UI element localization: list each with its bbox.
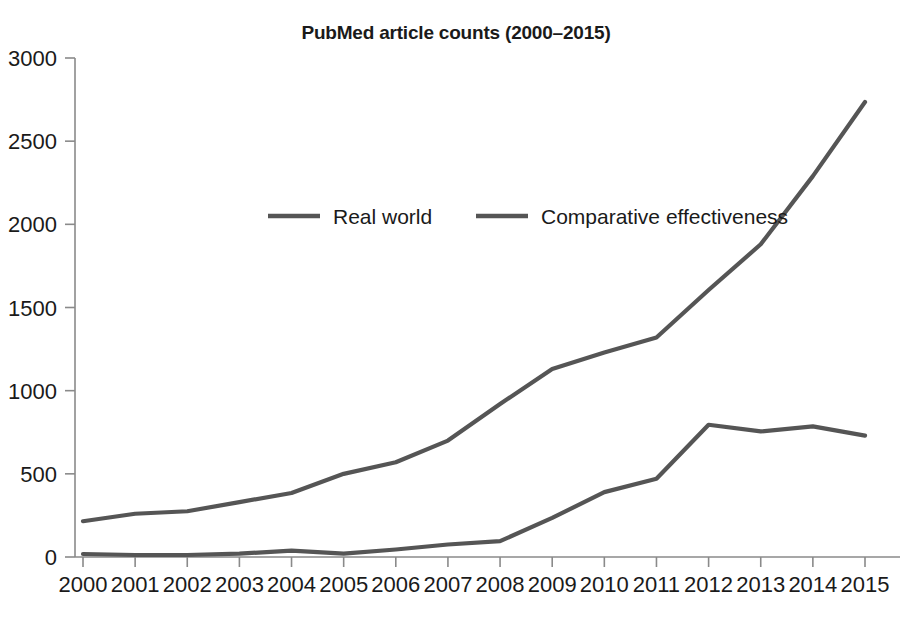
legend-label: Comparative effectiveness	[541, 205, 788, 228]
series-line-comparative-effectiveness	[83, 425, 865, 555]
x-tick-label: 2003	[215, 572, 264, 597]
x-tick-label: 2015	[841, 572, 890, 597]
series-line-real-world	[83, 102, 865, 521]
data-series-group	[83, 102, 865, 555]
y-tick-label: 1500	[8, 296, 57, 321]
y-tick-label: 2000	[8, 212, 57, 237]
x-tick-label: 2007	[423, 572, 472, 597]
x-tick-label: 2000	[59, 572, 108, 597]
x-tick-label: 2009	[528, 572, 577, 597]
x-tick-label: 2002	[163, 572, 212, 597]
y-tick-label: 3000	[8, 46, 57, 71]
x-axis-tick-marks	[83, 557, 865, 567]
x-tick-label: 2010	[580, 572, 629, 597]
x-tick-label: 2013	[736, 572, 785, 597]
x-tick-label: 2001	[111, 572, 160, 597]
x-tick-label: 2004	[267, 572, 316, 597]
x-axis-tick-labels: 2000200120022003200420052006200720082009…	[59, 572, 890, 597]
x-tick-label: 2012	[684, 572, 733, 597]
x-tick-label: 2006	[371, 572, 420, 597]
y-axis-tick-marks	[65, 58, 75, 557]
x-tick-label: 2011	[633, 572, 680, 597]
y-tick-label: 0	[45, 545, 57, 570]
chart-plot-area: 050010001500200025003000 200020012002200…	[0, 0, 912, 620]
y-axis-tick-labels: 050010001500200025003000	[8, 46, 57, 570]
legend-label: Real world	[333, 205, 432, 228]
x-tick-label: 2014	[788, 572, 837, 597]
chart-legend: Real worldComparative effectiveness	[268, 205, 788, 228]
y-tick-label: 500	[20, 462, 57, 487]
x-tick-label: 2005	[319, 572, 368, 597]
x-tick-label: 2008	[476, 572, 525, 597]
y-tick-label: 2500	[8, 129, 57, 154]
chart-figure: PubMed article counts (2000–2015) 050010…	[0, 0, 912, 620]
y-tick-label: 1000	[8, 379, 57, 404]
